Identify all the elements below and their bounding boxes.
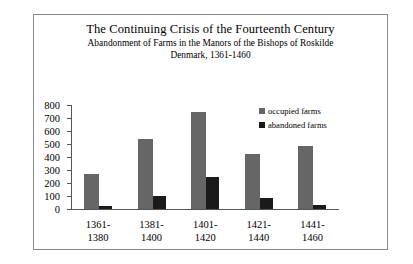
- bar-group: 1381-1400: [138, 105, 166, 209]
- legend-swatch-icon: [259, 108, 265, 114]
- y-axis-tick-label: 400: [30, 152, 60, 163]
- bar-occupied: [245, 154, 260, 209]
- bar-occupied: [138, 139, 153, 209]
- y-axis-tick-label: 600: [30, 126, 60, 137]
- y-axis-tick-label: 700: [30, 113, 60, 124]
- bar-group: 1401-1420: [191, 105, 219, 209]
- y-axis-tick: 800: [67, 105, 71, 106]
- y-axis-tick: 200: [67, 183, 71, 184]
- x-axis-category-line: 1460: [279, 231, 345, 244]
- x-axis-line: [71, 209, 339, 210]
- y-axis-tick-label: 0: [30, 204, 60, 215]
- y-axis-tick: 600: [67, 131, 71, 132]
- bar-group: 1361-1380: [84, 105, 112, 209]
- y-axis-tick: 500: [67, 144, 71, 145]
- bar-occupied: [84, 174, 99, 209]
- y-axis-tick: 400: [67, 157, 71, 158]
- bar-abandoned: [206, 177, 219, 210]
- legend-item: occupied farms: [259, 105, 327, 117]
- y-axis-tick-label: 800: [30, 100, 60, 111]
- bar-abandoned: [313, 205, 326, 209]
- x-axis-category-line: 1441-: [279, 218, 345, 231]
- bar-abandoned: [153, 196, 166, 209]
- bar-occupied: [191, 112, 206, 209]
- bar-abandoned: [99, 206, 112, 209]
- x-axis-category-label: 1441-1460: [279, 218, 345, 244]
- y-axis-tick: 100: [67, 196, 71, 197]
- chart-title-block: The Continuing Crisis of the Fourteenth …: [34, 22, 387, 61]
- legend-label: occupied farms: [268, 105, 321, 117]
- chart-figure: The Continuing Crisis of the Fourteenth …: [33, 14, 388, 250]
- y-axis-line: [71, 105, 72, 210]
- chart-subtitle-secondary: Denmark, 1361-1460: [34, 49, 387, 61]
- y-axis-tick-label: 100: [30, 191, 60, 202]
- y-axis-tick: 0: [67, 209, 71, 210]
- y-axis-tick: 300: [67, 170, 71, 171]
- y-axis-tick-label: 300: [30, 165, 60, 176]
- chart-legend: occupied farmsabandoned farms: [259, 105, 327, 133]
- bar-occupied: [298, 146, 313, 209]
- y-axis-tick-label: 200: [30, 178, 60, 189]
- y-axis-tick-label: 500: [30, 139, 60, 150]
- y-axis-tick: 700: [67, 118, 71, 119]
- bar-abandoned: [260, 198, 273, 209]
- legend-item: abandoned farms: [259, 119, 327, 131]
- chart-title: The Continuing Crisis of the Fourteenth …: [34, 22, 387, 37]
- chart-subtitle: Abandonment of Farms in the Manors of th…: [34, 37, 387, 49]
- legend-label: abandoned farms: [268, 119, 327, 131]
- legend-swatch-icon: [259, 122, 265, 128]
